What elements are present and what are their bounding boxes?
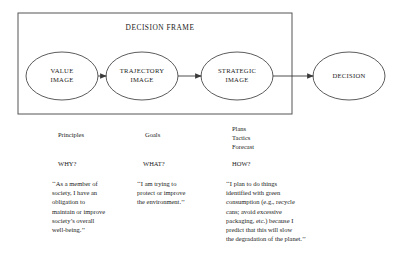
decision-frame-label: DECISION FRAME: [0, 23, 320, 32]
column-heading-plans: Plans Tactics Forecast: [232, 124, 254, 152]
column-question-how: HOW?: [232, 159, 250, 168]
column-question-what: WHAT?: [143, 159, 165, 168]
node-label-trajectory-image: TRAJECTORY IMAGE: [106, 67, 178, 84]
decision-frame-diagram: [0, 0, 401, 130]
node-label-decision: DECISION: [313, 72, 385, 81]
column-quote-value: ‘‘As a member of society, I have an obli…: [52, 179, 105, 234]
column-quote-trajectory: ‘‘I am trying to protect or improve the …: [137, 179, 185, 207]
node-label-strategic-image: STRATEGIC IMAGE: [201, 67, 273, 84]
column-question-why: WHY?: [58, 159, 76, 168]
figure-canvas: DECISION FRAME VALUE IMAGE TRAJECTORY IM…: [0, 0, 401, 254]
column-heading-goals: Goals: [145, 130, 160, 139]
column-quote-strategic: ‘‘I plan to do things identified with gr…: [226, 179, 306, 243]
node-label-value-image: VALUE IMAGE: [26, 67, 98, 84]
column-heading-principles: Principles: [58, 130, 84, 139]
